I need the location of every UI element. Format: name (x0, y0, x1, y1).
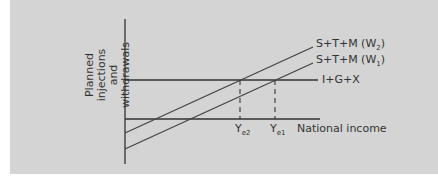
withdrawals-w2-label: S+T+M (W2) (316, 37, 385, 52)
y-axis-label-line2: and withdrawals (108, 30, 132, 120)
injections-withdrawals-diagram (0, 0, 438, 181)
y-axis-label-line1: Planned injections (84, 30, 108, 120)
ye1-label: Ye1 (270, 122, 286, 137)
y-axis-label: Planned injections and withdrawals (84, 30, 132, 120)
ye2-label: Ye2 (235, 122, 251, 137)
injections-label: I+G+X (322, 73, 360, 86)
withdrawals-w1-label: S+T+M (W1) (316, 53, 385, 68)
x-axis-label: National income (297, 122, 387, 135)
withdrawals-w2-line (125, 47, 313, 133)
